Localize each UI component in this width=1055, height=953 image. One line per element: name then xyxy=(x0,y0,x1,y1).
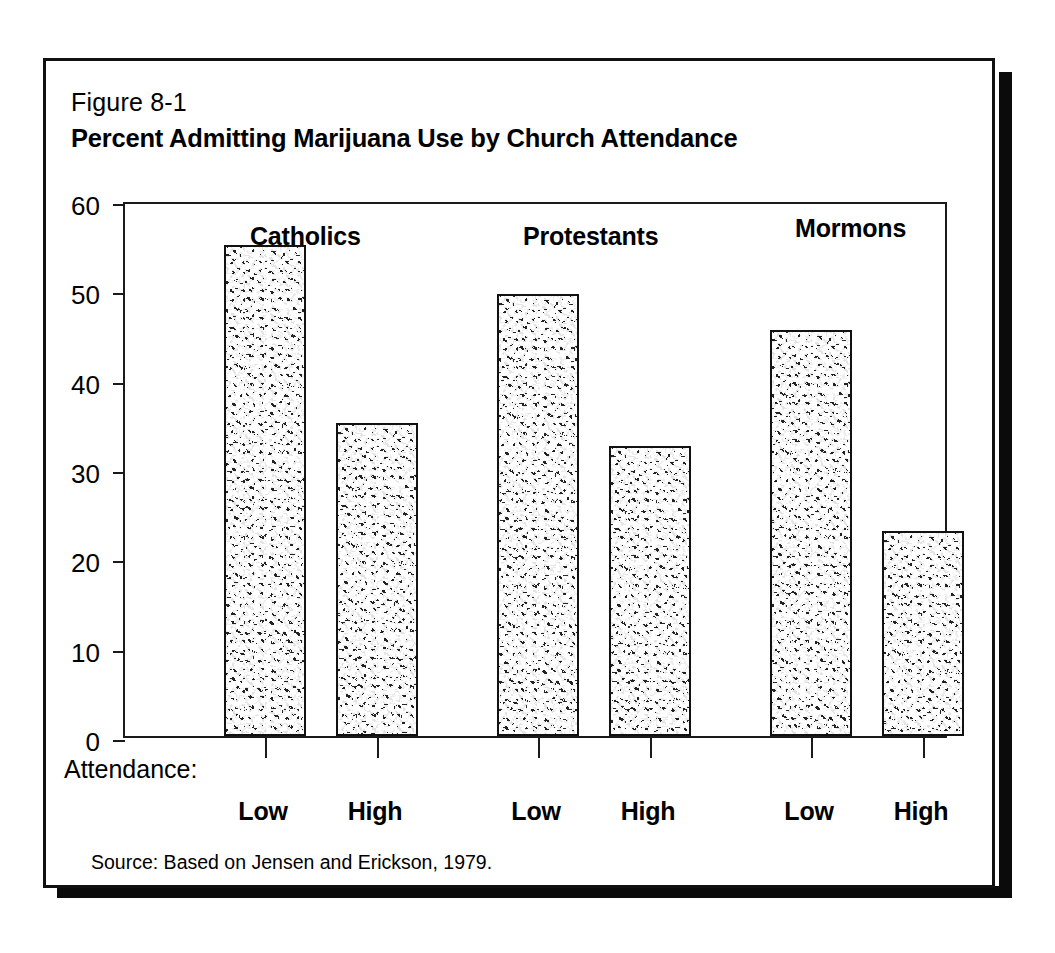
bar-mormons-low xyxy=(770,330,852,736)
y-axis-tick: 50 xyxy=(113,293,125,295)
source-note: Source: Based on Jensen and Erickson, 19… xyxy=(91,851,492,874)
x-axis-tick xyxy=(377,736,379,758)
y-axis-tick-label: 20 xyxy=(71,550,100,576)
y-axis-tick: 0 xyxy=(113,740,125,742)
x-axis-tick xyxy=(265,736,267,758)
attendance-value-protestants-high: High xyxy=(621,797,676,826)
y-axis-tick-label: 0 xyxy=(86,729,100,755)
y-axis-tick-label: 40 xyxy=(71,372,100,398)
attendance-value-mormons-high: High xyxy=(894,797,949,826)
y-axis-tick-label: 50 xyxy=(71,282,100,308)
bar-mormons-high xyxy=(882,531,964,736)
attendance-value-catholics-high: High xyxy=(348,797,403,826)
figure-panel: Figure 8-1 Percent Admitting Marijuana U… xyxy=(43,58,995,888)
group-label-catholics: Catholics xyxy=(250,222,361,251)
x-axis-tick xyxy=(650,736,652,758)
y-axis-tick-label: 30 xyxy=(71,461,100,487)
bar-protestants-low xyxy=(497,294,579,736)
bar-protestants-high xyxy=(609,446,691,736)
figure-number: Figure 8-1 xyxy=(71,88,187,117)
attendance-axis-label: Attendance: xyxy=(64,755,197,784)
group-label-mormons: Mormons xyxy=(795,214,906,243)
y-axis-tick: 40 xyxy=(113,383,125,385)
plot-area: 0102030405060CatholicsProtestantsMormons xyxy=(123,202,947,738)
y-axis-tick-label: 10 xyxy=(71,640,100,666)
attendance-value-protestants-low: Low xyxy=(511,797,560,826)
figure-shadow-right xyxy=(999,72,1012,896)
y-axis-tick: 30 xyxy=(113,472,125,474)
bar-catholics-low xyxy=(224,245,306,736)
figure-title: Percent Admitting Marijuana Use by Churc… xyxy=(71,124,737,153)
bar-catholics-high xyxy=(336,423,418,736)
y-axis-tick: 20 xyxy=(113,561,125,563)
attendance-value-catholics-low: Low xyxy=(238,797,287,826)
attendance-value-mormons-low: Low xyxy=(784,797,833,826)
x-axis-tick xyxy=(811,736,813,758)
y-axis-tick: 10 xyxy=(113,651,125,653)
group-label-protestants: Protestants xyxy=(523,222,658,251)
x-axis-tick xyxy=(923,736,925,758)
y-axis-tick: 60 xyxy=(113,204,125,206)
x-axis-tick xyxy=(538,736,540,758)
y-axis-tick-label: 60 xyxy=(71,193,100,219)
